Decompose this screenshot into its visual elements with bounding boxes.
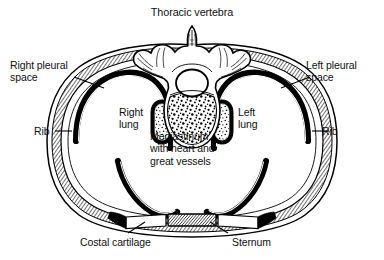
label-right-pleural-space: Right pleural space [10, 60, 68, 84]
costal-cartilage-right [218, 215, 258, 229]
label-mediastinum: Mediastinum with heart and great vessels [150, 130, 215, 167]
vertebral-foramen [176, 70, 208, 97]
label-left-pleural-space: Left pleural space [306, 60, 357, 84]
label-sternum: Sternum [232, 237, 271, 249]
label-right-lung: Right lung [119, 107, 143, 131]
label-costal-cartilage: Costal cartilage [80, 237, 151, 249]
page-title: Thoracic vertebra [0, 7, 384, 19]
label-rib-right: Rib [322, 126, 337, 138]
label-left-lung: Left lung [238, 107, 257, 131]
sternum [168, 214, 216, 226]
costal-cartilage-left [126, 215, 166, 229]
label-rib-left: Rib [34, 126, 49, 138]
